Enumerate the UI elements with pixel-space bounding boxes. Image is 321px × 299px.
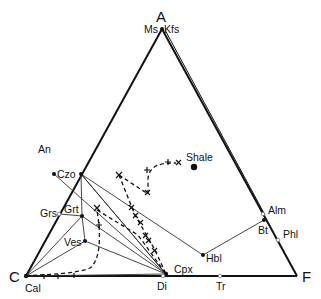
- phl-point: [276, 238, 280, 242]
- hbl-label: Hbl: [206, 252, 222, 264]
- cpx-label: Cpx: [174, 263, 193, 275]
- inner-edge: [165, 30, 265, 215]
- acf-diagram: A Ms Kfs C Cal F An Czo Grs Grt Ves Shal…: [0, 0, 321, 299]
- cal-label: Cal: [25, 282, 41, 294]
- ves-label: Ves: [64, 236, 82, 248]
- ves-point: [83, 239, 87, 243]
- kfs-label: Kfs: [164, 23, 179, 35]
- cal-point: [24, 274, 28, 278]
- tr-point: [218, 274, 222, 278]
- hbl-point: [201, 253, 205, 257]
- bt-point: [262, 218, 266, 222]
- di-label: Di: [157, 280, 167, 292]
- grs-label: Grs: [40, 207, 57, 219]
- czo-label: Czo: [57, 168, 76, 180]
- vertex-c-label: C: [9, 268, 20, 285]
- shale-point: [191, 164, 197, 170]
- ms-label: Ms: [144, 23, 158, 35]
- an-point: [52, 172, 56, 176]
- phl-label: Phl: [283, 228, 298, 240]
- shale-label: Shale: [186, 151, 213, 163]
- bt-label: Bt: [258, 224, 268, 236]
- czo-point: [79, 172, 83, 176]
- vertex-f-label: F: [302, 268, 311, 285]
- tr-label: Tr: [216, 280, 226, 292]
- grs-point: [57, 212, 61, 216]
- an-label: An: [38, 143, 51, 155]
- alm-point: [261, 212, 265, 216]
- di-point: [161, 274, 165, 278]
- alm-label: Alm: [268, 204, 286, 216]
- tie-lines: [26, 174, 264, 276]
- grt-point: [80, 214, 84, 218]
- grt-label: Grt: [64, 203, 79, 215]
